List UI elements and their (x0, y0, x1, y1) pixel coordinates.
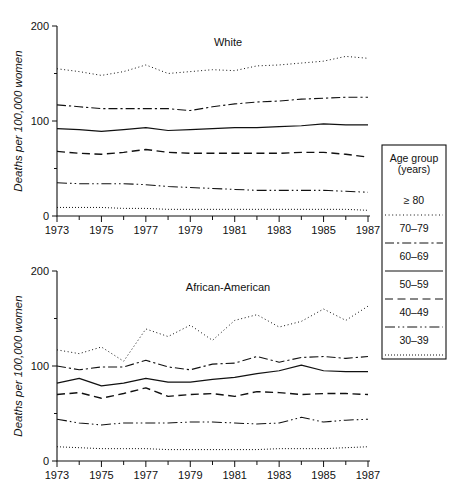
x-tick-label: 1975 (89, 224, 113, 236)
chart-svg: 010020019731975197719791981198319851987D… (0, 0, 452, 488)
legend-item-label-6: 30–39 (399, 334, 428, 346)
x-tick-label: 1979 (178, 224, 202, 236)
x-tick-label: 1987 (356, 469, 380, 481)
panel-title-african-american: African-American (186, 281, 270, 293)
series-line-6 (57, 207, 368, 210)
panel-african-american: 010020019731975197719791981198319851987D… (12, 265, 380, 481)
series-line-3 (57, 365, 368, 386)
legend-item-label-4: 50–59 (399, 278, 428, 290)
legend-title-line2: (years) (398, 163, 431, 175)
series-line-5 (57, 183, 368, 193)
x-tick-label: 1977 (134, 224, 158, 236)
y-tick-label: 100 (31, 360, 49, 372)
series-line-2 (57, 97, 368, 110)
x-tick-label: 1977 (134, 469, 158, 481)
x-tick-label: 1985 (311, 469, 335, 481)
x-tick-label: 1973 (45, 224, 69, 236)
panel-white: 010020019731975197719791981198319851987D… (12, 20, 380, 236)
series-line-6 (57, 447, 368, 450)
y-tick-label: 100 (31, 115, 49, 127)
series-line-1 (57, 56, 368, 75)
x-tick-label: 1981 (222, 224, 246, 236)
series-line-5 (57, 417, 368, 425)
legend-item-label-5: 40–49 (399, 306, 428, 318)
x-tick-label: 1983 (267, 224, 291, 236)
y-tick-label: 0 (43, 455, 49, 467)
legend: Age group(years)≥ 8070–7960–6950–5940–49… (382, 145, 446, 359)
y-axis-title: Deaths per 100,000 women (12, 295, 24, 436)
series-line-2 (57, 357, 368, 370)
series-line-4 (57, 150, 368, 158)
y-tick-label: 200 (31, 20, 49, 32)
y-tick-label: 0 (43, 210, 49, 222)
y-tick-label: 200 (31, 265, 49, 277)
x-tick-label: 1979 (178, 469, 202, 481)
legend-item-label-3: 60–69 (399, 250, 428, 262)
figure-container: 010020019731975197719791981198319851987D… (0, 0, 452, 488)
series-line-1 (57, 306, 368, 361)
axis-lines (57, 26, 370, 216)
x-tick-label: 1975 (89, 469, 113, 481)
series-line-3 (57, 124, 368, 132)
x-tick-label: 1973 (45, 469, 69, 481)
x-tick-label: 1985 (311, 224, 335, 236)
axis-lines (57, 271, 370, 461)
panel-title-white: White (214, 36, 242, 48)
legend-item-label-1: ≥ 80 (404, 194, 425, 206)
series-line-4 (57, 388, 368, 398)
x-tick-label: 1983 (267, 469, 291, 481)
legend-item-label-2: 70–79 (399, 222, 428, 234)
y-axis-title: Deaths per 100,000 women (12, 50, 24, 191)
x-tick-label: 1981 (222, 469, 246, 481)
x-tick-label: 1987 (356, 224, 380, 236)
